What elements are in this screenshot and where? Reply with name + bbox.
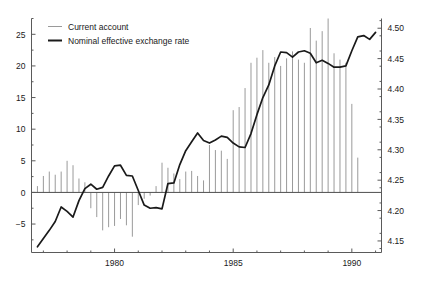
y-label-left: 20 xyxy=(16,61,26,71)
y-label-right: 4.25 xyxy=(388,175,405,185)
y-label-right: 4.15 xyxy=(388,236,405,246)
y-label-right: 4.50 xyxy=(388,23,405,33)
x-label: 1980 xyxy=(105,258,124,268)
y-label-left: 10 xyxy=(16,124,26,134)
y-label-left: 25 xyxy=(16,30,26,40)
y-label-right: 4.20 xyxy=(388,206,405,216)
y-label-left: 5 xyxy=(21,156,26,166)
y-label-right: 4.40 xyxy=(388,84,405,94)
y-label-left: 15 xyxy=(16,93,26,103)
y-label-right: 4.30 xyxy=(388,145,405,155)
x-label: 1985 xyxy=(224,258,243,268)
y-label-right: 4.45 xyxy=(388,54,405,64)
x-label: 1990 xyxy=(342,258,361,268)
y-label-left: 0 xyxy=(21,188,26,198)
legend-label-exchange-rate: Nominal effective exchange rate xyxy=(68,36,190,46)
legend-label-current-account: Current account xyxy=(68,22,129,32)
chart-container: −505101520254.154.204.254.304.354.404.45… xyxy=(0,0,423,283)
y-label-left: −5 xyxy=(16,219,26,229)
y-label-right: 4.35 xyxy=(388,115,405,125)
economic-chart: −505101520254.154.204.254.304.354.404.45… xyxy=(0,0,423,283)
